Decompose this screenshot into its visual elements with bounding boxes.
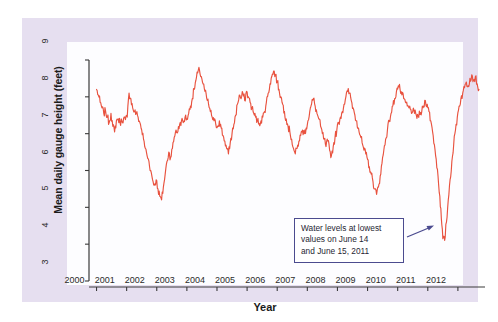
y-tick-label: 5	[40, 178, 50, 198]
arrow-head	[427, 226, 435, 231]
annotation-line-1: Water levels at lowest	[301, 223, 397, 234]
y-tick-label: 9	[40, 31, 50, 51]
y-tick-label: 3	[40, 252, 50, 272]
chart-panel: Mean daily gauge height (feet) Year Wate…	[22, 18, 478, 302]
arrow-shaft	[407, 227, 431, 237]
y-tick-label: 4	[40, 215, 50, 235]
axis-lines	[89, 60, 485, 287]
annotation-callout[interactable]: Water levels at lowest values on June 14…	[294, 218, 404, 263]
x-tick-label: 2012	[416, 275, 456, 285]
gauge-height-line	[97, 67, 479, 240]
annotation-arrow	[407, 226, 434, 238]
annotation-line-2: values on June 14	[301, 234, 397, 245]
figure-container: Mean daily gauge height (feet) Year Wate…	[0, 0, 498, 322]
y-tick-label: 6	[40, 142, 50, 162]
annotation-line-3: and June 15, 2011	[301, 246, 397, 257]
y-tick-label: 8	[40, 68, 50, 88]
y-tick-label: 7	[40, 105, 50, 125]
